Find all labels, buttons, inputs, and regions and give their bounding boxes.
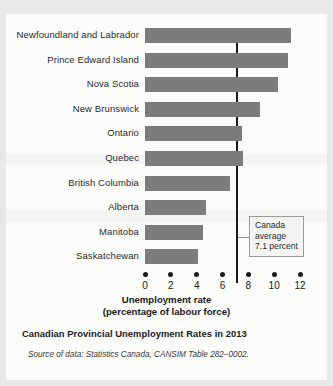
x-axis-tick-label: 4 bbox=[186, 280, 208, 291]
bar-row: Saskatchewan bbox=[6, 247, 327, 265]
source-note: Source of data: Statistics Canada, CANSI… bbox=[28, 350, 328, 359]
bleed-text: · · · · · · · bbox=[16, 0, 316, 3]
x-axis-tick-dot bbox=[194, 272, 199, 277]
bar-category-label: Quebec bbox=[6, 149, 139, 167]
bar-category-label: Alberta bbox=[6, 198, 139, 216]
bar bbox=[145, 77, 278, 92]
bar-chart-plot-area: Canada average 7.1 percent Newfoundland … bbox=[6, 22, 327, 290]
x-axis-title: Unemployment rate (percentage of labour … bbox=[6, 294, 327, 318]
bar-category-label: Ontario bbox=[6, 124, 139, 142]
bar-category-label: New Brunswick bbox=[6, 100, 139, 118]
bar bbox=[145, 225, 203, 240]
x-axis-tick-label: 10 bbox=[263, 280, 285, 291]
x-axis-tick-dot bbox=[220, 272, 225, 277]
bar-row: Prince Edward Island bbox=[6, 51, 327, 69]
bar-row: Newfoundland and Labrador bbox=[6, 26, 327, 44]
bar-category-label: British Columbia bbox=[6, 174, 139, 192]
figure-caption: Canadian Provincial Unemployment Rates i… bbox=[22, 328, 322, 339]
bar-row: Nova Scotia bbox=[6, 75, 327, 93]
bar bbox=[145, 126, 242, 141]
bar bbox=[145, 151, 243, 166]
bar bbox=[145, 200, 206, 215]
bar bbox=[145, 53, 288, 68]
page-top-bleed: · · · · · · · bbox=[0, 0, 333, 14]
bar bbox=[145, 28, 291, 43]
x-axis-title-line1: Unemployment rate bbox=[6, 294, 327, 306]
figure-panel: Canada average 7.1 percent Newfoundland … bbox=[6, 14, 327, 380]
bar-category-label: Prince Edward Island bbox=[6, 51, 139, 69]
bar-category-label: Saskatchewan bbox=[6, 247, 139, 265]
x-axis-tick-dot bbox=[298, 272, 303, 277]
bar bbox=[145, 102, 260, 117]
x-axis-tick-label: 12 bbox=[289, 280, 311, 291]
bar-row: Manitoba bbox=[6, 223, 327, 241]
bar-row: Alberta bbox=[6, 198, 327, 216]
bar-row: New Brunswick bbox=[6, 100, 327, 118]
bar bbox=[145, 176, 230, 191]
x-axis-tick-dot bbox=[246, 272, 251, 277]
x-axis-title-line2: (percentage of labour force) bbox=[6, 306, 327, 318]
bar-category-label: Nova Scotia bbox=[6, 75, 139, 93]
x-axis-tick-label: 0 bbox=[134, 280, 156, 291]
bar-row: Ontario bbox=[6, 124, 327, 142]
bar-category-label: Newfoundland and Labrador bbox=[6, 26, 139, 44]
x-axis-tick-dot bbox=[168, 272, 173, 277]
x-axis-tick-dot bbox=[143, 272, 148, 277]
bar-category-label: Manitoba bbox=[6, 223, 139, 241]
bar-row: Quebec bbox=[6, 149, 327, 167]
x-axis-tick-label: 2 bbox=[160, 280, 182, 291]
bar-row: British Columbia bbox=[6, 174, 327, 192]
x-axis-tick-dot bbox=[272, 272, 277, 277]
x-axis-tick-label: 8 bbox=[237, 280, 259, 291]
x-axis-tick-label: 6 bbox=[212, 280, 234, 291]
bar bbox=[145, 249, 198, 264]
